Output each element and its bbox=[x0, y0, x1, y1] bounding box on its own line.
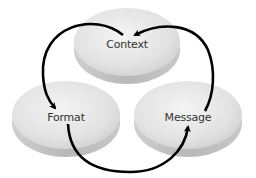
cycle-diagram: Context Format Message bbox=[0, 0, 256, 178]
label-context: Context bbox=[106, 38, 148, 51]
diagram-canvas bbox=[0, 0, 256, 178]
label-message: Message bbox=[165, 111, 212, 124]
label-format: Format bbox=[47, 111, 85, 124]
